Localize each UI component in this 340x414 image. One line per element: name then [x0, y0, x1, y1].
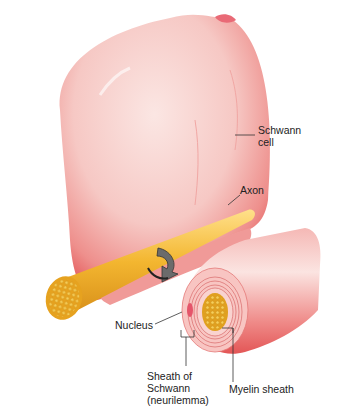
- label-schwann-line2: cell: [258, 136, 301, 148]
- illustration: [0, 0, 340, 414]
- label-sheath-of-schwann: Sheath of Schwann (neurilemma): [147, 370, 209, 406]
- label-schwann-line1: Schwann: [258, 124, 301, 136]
- label-sheath-line1: Sheath of: [147, 370, 209, 382]
- label-nucleus: Nucleus: [115, 319, 153, 331]
- nucleus: [187, 303, 193, 317]
- label-schwann-cell: Schwann cell: [258, 124, 301, 148]
- label-sheath-line3: (neurilemma): [147, 394, 209, 406]
- label-myelin-sheath: Myelin sheath: [229, 383, 294, 395]
- label-axon: Axon: [240, 184, 264, 196]
- label-sheath-line2: Schwann: [147, 382, 209, 394]
- myelination-diagram: Schwann cell Axon Nucleus Sheath of Schw…: [0, 0, 340, 414]
